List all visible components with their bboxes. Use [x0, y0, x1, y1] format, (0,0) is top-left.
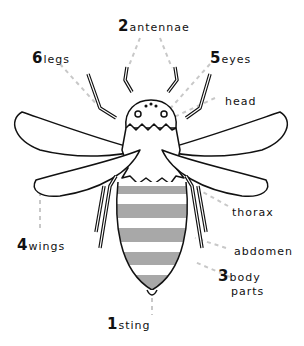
label-wings: 4wings [17, 237, 65, 253]
label-body-parts-line2: parts [231, 286, 264, 297]
label-antennae: 2antennae [118, 18, 190, 34]
label-legs: 6legs [32, 50, 70, 66]
label-abdomen: abdomen [234, 242, 293, 258]
bee-diagram: 2antennae 6legs 5eyes head thorax 4wings… [0, 0, 304, 346]
label-thorax: thorax [232, 203, 274, 219]
abdomen-shape [100, 182, 200, 295]
label-sting: 1sting [107, 316, 151, 332]
label-body-parts: 3body parts [218, 268, 264, 297]
label-eyes: 5eyes [210, 50, 251, 66]
label-head: head [225, 92, 256, 108]
